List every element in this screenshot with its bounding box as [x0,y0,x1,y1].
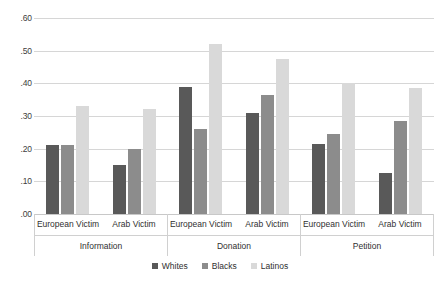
bar[interactable] [194,129,207,214]
bar[interactable] [409,88,422,214]
bar[interactable] [209,44,222,214]
axis-sub-label: European Victim [35,214,101,235]
bar[interactable] [61,145,74,214]
legend-item[interactable]: Latinos [251,261,288,271]
plot-area [34,18,434,214]
sub-group [234,18,301,214]
axis-sub-row: European VictimArab Victim [35,214,167,236]
y-axis-tick-label: .00 [2,209,32,219]
axis-sub-label: Arab Victim [367,214,433,235]
bar[interactable] [312,144,325,214]
legend-item[interactable]: Blacks [202,261,237,271]
axis-sub-label: Arab Victim [101,214,167,235]
axis-outer-column: European VictimArab VictimInformation [34,214,167,256]
bar[interactable] [143,109,156,214]
outer-group [34,18,167,214]
axis-sub-row: European VictimArab Victim [301,214,433,236]
bar[interactable] [261,95,274,214]
bar[interactable] [179,87,192,214]
bar-chart: .60.50.40.30.20.10.00 European VictimAra… [0,0,440,285]
legend-swatch-icon [152,263,158,269]
axis-sub-label: European Victim [168,214,234,235]
y-axis-tick-label: .10 [2,176,32,186]
legend-swatch-icon [251,263,257,269]
bar[interactable] [379,173,392,214]
bar[interactable] [246,113,259,214]
legend-swatch-icon [202,263,208,269]
outer-group [167,18,300,214]
y-axis-tick-label: .30 [2,111,32,121]
bar[interactable] [327,134,340,214]
legend-label: Whites [162,261,188,271]
axis-outer-column: European VictimArab VictimPetition [300,214,434,256]
axis-outer-label: Information [35,236,167,257]
chart-legend: WhitesBlacksLatinos [0,261,440,271]
legend-item[interactable]: Whites [152,261,188,271]
axis-outer-label: Petition [301,236,433,257]
sub-group [367,18,434,214]
axis-outer-column: European VictimArab VictimDonation [167,214,300,256]
bar-groups [34,18,434,214]
bar[interactable] [128,149,141,214]
bar[interactable] [342,83,355,214]
outer-group [301,18,434,214]
axis-sub-label: Arab Victim [234,214,300,235]
legend-label: Latinos [261,261,288,271]
x-axis-label-table: European VictimArab VictimInformationEur… [34,214,434,256]
bar[interactable] [276,59,289,214]
sub-group [301,18,368,214]
bar[interactable] [394,121,407,214]
y-axis-tick-label: .60 [2,13,32,23]
axis-sub-row: European VictimArab Victim [168,214,300,236]
sub-group [34,18,101,214]
sub-group [167,18,234,214]
axis-outer-label: Donation [168,236,300,257]
sub-group [101,18,168,214]
axis-sub-label: European Victim [301,214,367,235]
bar[interactable] [113,165,126,214]
legend-label: Blacks [212,261,237,271]
y-axis-tick-label: .50 [2,46,32,56]
bar[interactable] [46,145,59,214]
y-axis-tick-label: .20 [2,144,32,154]
y-axis-tick-label: .40 [2,78,32,88]
bar[interactable] [76,106,89,214]
